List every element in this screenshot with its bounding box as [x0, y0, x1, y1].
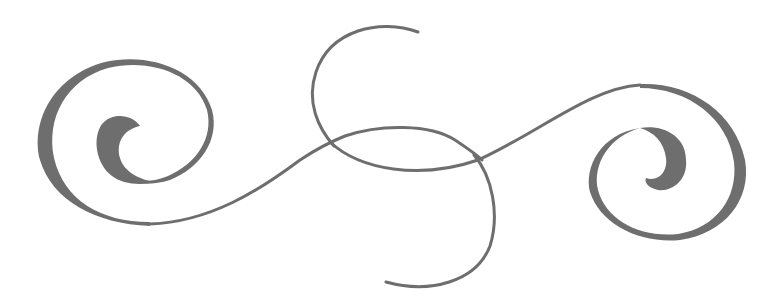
right-spiral-inner-hook — [640, 127, 686, 190]
left-spiral-outer-loop — [38, 59, 214, 226]
flourish-baseline-left — [150, 127, 482, 224]
connecting-flourish — [150, 85, 640, 224]
left-spiral — [38, 59, 214, 226]
right-spiral — [589, 84, 746, 241]
swirl-ornament: Decorative swirl flourish divider — [0, 0, 782, 306]
center-loop — [312, 26, 494, 286]
center-loop-lower-arc — [386, 155, 494, 287]
left-spiral-inner-hook — [97, 116, 156, 184]
swirl-flourish-graphic — [0, 0, 782, 306]
